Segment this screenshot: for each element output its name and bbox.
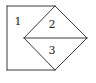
region-3-label: 3 [49, 44, 56, 57]
geometry-diagram: 1 2 3 [0, 0, 96, 83]
edge-rhombus-bottom-right [55, 38, 87, 70]
edge-rhombus-top-right [55, 6, 87, 38]
region-2-label: 2 [49, 18, 56, 31]
region-1-label: 1 [15, 15, 22, 28]
